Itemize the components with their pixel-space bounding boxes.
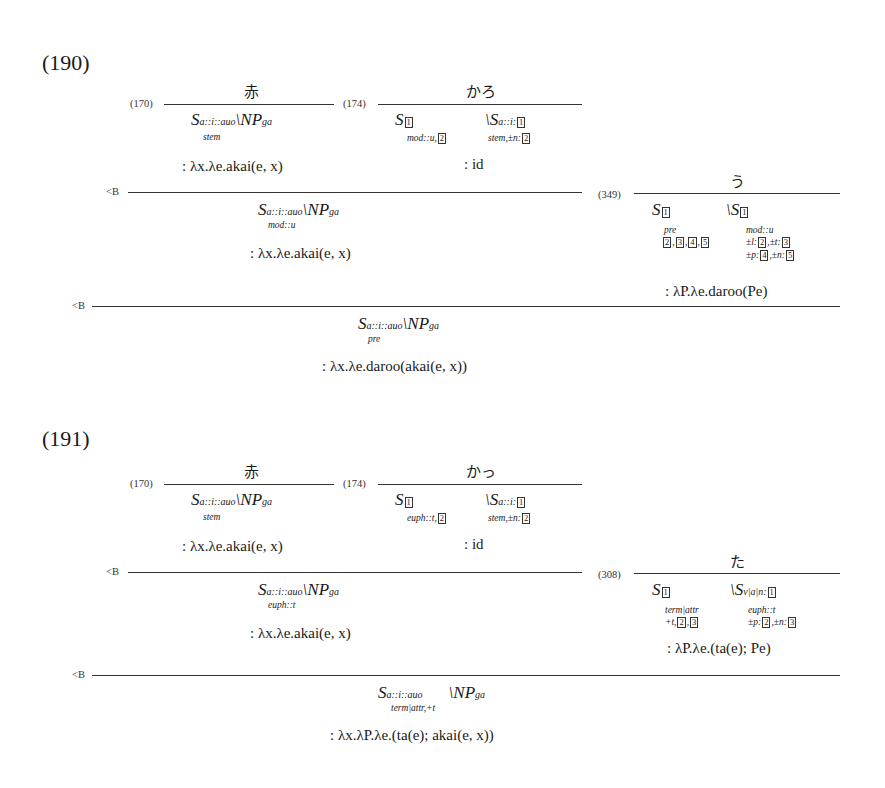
category: Sa::i::auo\NPga [258, 580, 339, 600]
feat-text: ±p: [748, 617, 761, 627]
inference-rule-line [164, 484, 334, 485]
lexical-word: かっ [380, 460, 582, 481]
cat-main: S [395, 490, 404, 509]
cat-feature: term|attr,+t [391, 703, 435, 714]
cat-main: \S [730, 580, 743, 599]
feat-text: stem,±n: [488, 133, 521, 143]
cat-main: S [652, 200, 661, 219]
example-number: (190) [42, 50, 90, 76]
cat-sub: a::i: [498, 496, 516, 507]
semantics: : id [464, 536, 484, 553]
cat-feature: ±p:4,±n:5 [746, 250, 795, 261]
index-box: 1 [768, 587, 776, 598]
feat-text: ,±t: [767, 237, 780, 247]
cat-feature: term|attr [665, 605, 699, 616]
cat-main: S [258, 580, 267, 599]
cat-arg-sub: ga [262, 496, 272, 507]
cat-feature-boxes: 2,3,4,5 [662, 237, 710, 248]
category: Sa::i::auo\NPga [191, 490, 272, 510]
index-box: 2 [522, 133, 530, 144]
index-box: 5 [786, 250, 794, 261]
index-box: 2 [663, 237, 671, 248]
rule-label: <B [106, 186, 119, 197]
rule-label: <B [72, 300, 85, 311]
cat-feature: +t,2,3 [665, 617, 699, 628]
cat-feature: stem [203, 132, 220, 143]
cat-arg: \NP [403, 314, 429, 333]
index-box: 1 [405, 497, 413, 508]
cat-feature: mod::u,2 [407, 133, 447, 144]
cat-arg-sub: ga [329, 586, 339, 597]
cat-arg-sub: ga [262, 116, 272, 127]
cat-main: S [378, 683, 387, 702]
category-left: S1 [652, 580, 671, 600]
rule-label: (174) [343, 478, 366, 489]
cat-feature: ±p:2,±n:3 [748, 617, 797, 628]
rule-label: (170) [130, 478, 153, 489]
cat-feature: pre [664, 225, 676, 236]
cat-main: \S [726, 200, 739, 219]
cat-arg: \NP [303, 580, 329, 599]
index-box: 1 [517, 117, 525, 128]
rule-label: (174) [343, 98, 366, 109]
feat-text: ,±n: [771, 617, 787, 627]
cat-main: \S [485, 490, 498, 509]
cat-feature: mod::u [746, 225, 773, 236]
semantics: : λx.λe.akai(e, x) [250, 625, 351, 642]
cat-feature: mod::u [268, 220, 295, 231]
rule-label: (170) [130, 98, 153, 109]
index-box: 3 [788, 617, 796, 628]
lexical-word: かろ [380, 80, 582, 101]
index-box: 2 [438, 513, 446, 524]
category-right: \Sv|a|n:1 [730, 580, 777, 600]
lexical-word: 赤 [166, 460, 336, 481]
feat-text: ±p: [746, 250, 759, 260]
rule-label: (349) [598, 189, 621, 200]
category-left: S1 [652, 200, 671, 220]
category-right: \Sa::i:1 [485, 110, 526, 130]
semantics: : λP.λe.daroo(Pe) [665, 283, 767, 300]
index-box: 3 [782, 237, 790, 248]
cat-arg-sub: ga [429, 320, 439, 331]
cat-sub: v|a|n: [743, 586, 766, 597]
index-box: 1 [517, 497, 525, 508]
cat-arg: \NP [303, 200, 329, 219]
inference-rule-line [378, 104, 582, 105]
cat-main: S [191, 110, 200, 129]
lexical-word: う [635, 170, 840, 191]
index-box: 2 [758, 237, 766, 248]
semantics: : id [464, 156, 484, 173]
index-box: 3 [676, 237, 684, 248]
inference-rule-line [128, 572, 582, 573]
index-box: 2 [677, 617, 685, 628]
cat-feature: stem [203, 512, 220, 523]
example-number: (191) [42, 426, 90, 452]
lexical-word: た [635, 550, 840, 571]
cat-sub: a::i::auo [387, 689, 423, 700]
semantics: : λP.λe.(ta(e); Pe) [667, 640, 771, 657]
cat-main: S [395, 110, 404, 129]
cat-arg: \NP [236, 110, 262, 129]
category: Sa::i::auo\NPga [258, 200, 339, 220]
cat-main: S [358, 314, 367, 333]
cat-sub: a::i::auo [267, 586, 303, 597]
cat-arg-sub: ga [475, 689, 485, 700]
cat-main: S [191, 490, 200, 509]
inference-rule-line [634, 573, 840, 574]
feat-text: ,±n: [769, 250, 785, 260]
cat-main: S [652, 580, 661, 599]
inference-rule-line [128, 192, 582, 193]
cat-sub: a::i::auo [267, 206, 303, 217]
index-box: 1 [662, 207, 670, 218]
index-box: 2 [762, 617, 770, 628]
feat-text: mod::u, [407, 133, 437, 143]
semantics: : λx.λe.daroo(akai(e, x)) [322, 358, 467, 375]
feat-text: stem,±n: [488, 513, 521, 523]
semantics: : λx.λe.akai(e, x) [182, 158, 283, 175]
inference-rule-line [92, 675, 840, 676]
feat-text: ±l: [746, 237, 757, 247]
inference-rule-line [634, 193, 840, 194]
feat-text: +t, [665, 617, 676, 627]
cat-sub: a::i: [498, 116, 516, 127]
category: Sa::i::auo\NPga [358, 314, 439, 334]
